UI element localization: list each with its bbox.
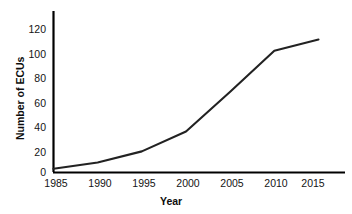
x-tick-label: 1990: [83, 177, 117, 189]
x-axis-title: Year: [160, 195, 182, 207]
x-tick-label: 1985: [39, 177, 73, 189]
x-tick-label: 2005: [215, 177, 249, 189]
x-tick-label: 1995: [127, 177, 161, 189]
y-tick-label: 20: [18, 146, 46, 158]
x-tick-label: 2000: [171, 177, 205, 189]
x-tick-label: 2015: [296, 177, 330, 189]
line-chart: 120 100 80 60 40 20 0 1985 1990 1995 200…: [0, 0, 352, 214]
x-tick-label: 2010: [259, 177, 293, 189]
data-series-line: [54, 40, 319, 169]
y-tick-label: 120: [18, 23, 46, 35]
y-axis-title: Number of ECUs: [14, 57, 26, 140]
